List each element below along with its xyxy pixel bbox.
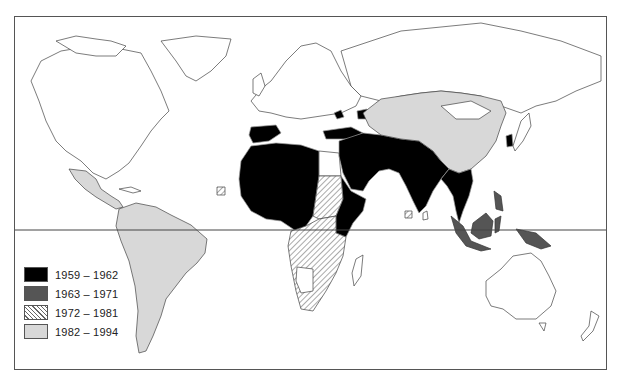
new-guinea: [516, 229, 551, 249]
legend-item-1963-1971: 1963 – 1971: [24, 284, 118, 303]
legend-label: 1963 – 1971: [55, 288, 118, 300]
maldives: [405, 211, 412, 218]
cape-verde: [217, 187, 225, 195]
legend-label: 1982 – 1994: [55, 326, 118, 338]
iberia: [249, 125, 281, 143]
north-america: [31, 46, 169, 179]
legend-swatch-black: [24, 267, 48, 282]
australia: [486, 253, 556, 319]
caribbean: [119, 187, 141, 193]
madagascar: [352, 255, 363, 286]
tasmania: [539, 323, 546, 331]
new-zealand: [581, 311, 599, 341]
north-west-africa: [239, 143, 319, 231]
map-legend: 1959 – 1962 1963 – 1971 1972 – 1981 1982…: [24, 265, 118, 341]
egypt: [319, 151, 341, 176]
greenland: [161, 36, 231, 81]
legend-item-1982-1994: 1982 – 1994: [24, 322, 118, 341]
legend-swatch-hatched: [24, 305, 48, 320]
legend-swatch-dark-grey: [24, 286, 48, 301]
sri-lanka: [423, 211, 428, 220]
south-america: [116, 203, 207, 353]
legend-label: 1959 – 1962: [55, 269, 118, 281]
legend-label: 1972 – 1981: [55, 307, 118, 319]
mexico-central-america: [69, 169, 123, 209]
south-korea: [506, 134, 513, 147]
legend-item-1972-1981: 1972 – 1981: [24, 303, 118, 322]
japan: [513, 113, 531, 151]
legend-swatch-light-grey: [24, 324, 48, 339]
borneo: [471, 213, 493, 239]
southeast-asia: [441, 169, 473, 223]
legend-item-1959-1962: 1959 – 1962: [24, 265, 118, 284]
philippines: [494, 191, 503, 211]
